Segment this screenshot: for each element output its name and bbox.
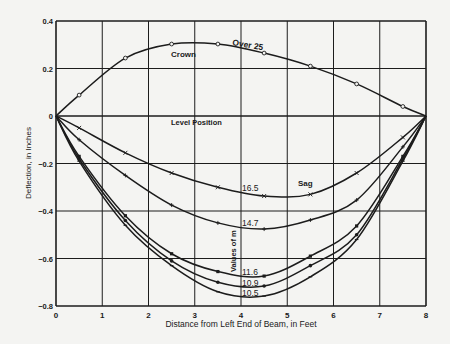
marker-plus: [216, 221, 220, 225]
x-tick-label: 7: [378, 311, 383, 320]
label-m-10-5: 10.5: [242, 288, 259, 298]
marker-dot: [216, 280, 220, 284]
marker-dot: [355, 233, 359, 237]
marker-circle: [123, 56, 127, 60]
marker-square: [124, 214, 127, 217]
x-tick-label: 6: [331, 311, 336, 320]
marker-dot: [124, 219, 128, 223]
deflection-chart: 0123456780.40.20−0.2−0.4−0.6−0.8 Distanc…: [0, 0, 450, 344]
marker-dot: [309, 264, 313, 268]
label-m-11-6: 11.6: [242, 267, 258, 277]
marker-circle: [355, 82, 359, 86]
marker-circle: [308, 64, 312, 68]
marker-plus: [262, 227, 266, 231]
annotation-values-of-m: Values of m: [229, 230, 238, 272]
annotation-level-position: Level Position: [171, 118, 222, 127]
marker-plus: [308, 218, 312, 222]
annotation-sag: Sag: [298, 179, 313, 188]
label-m-10-9: 10.9: [242, 278, 259, 288]
y-tick-label: 0.2: [43, 65, 53, 74]
x-tick-label: 2: [146, 311, 151, 320]
marker-circle: [401, 105, 405, 109]
marker-square: [170, 252, 173, 255]
marker-circle: [216, 42, 220, 46]
x-tick-label: 0: [54, 311, 59, 320]
y-tick-label: 0: [49, 112, 53, 121]
marker-square: [216, 270, 219, 273]
y-tick-label: −0.8: [38, 302, 53, 311]
marker-square: [263, 274, 266, 277]
x-axis-label: Distance from Left End of Beam, in Feet: [165, 319, 317, 329]
marker-circle: [77, 93, 81, 97]
marker-x: [401, 135, 405, 139]
y-tick-label: −0.4: [38, 207, 54, 216]
marker-square: [355, 224, 358, 227]
marker-circle: [262, 51, 266, 55]
annotation-crown: Crown: [171, 50, 196, 59]
y-axis-label: Deflection, in Inches: [24, 127, 33, 199]
marker-dot: [77, 157, 81, 161]
y-tick-label: −0.6: [38, 255, 53, 264]
annotation-over-25: Over 25: [232, 37, 265, 52]
x-tick-label: 8: [424, 311, 429, 320]
marker-dot: [401, 157, 405, 161]
marker-circle: [170, 42, 174, 46]
marker-dot: [170, 259, 174, 263]
y-tick-label: −0.2: [38, 160, 53, 169]
marker-square: [309, 255, 312, 258]
label-m-14-7: 14.7: [242, 218, 259, 228]
chart-canvas: 0123456780.40.20−0.2−0.4−0.6−0.8 Distanc…: [0, 0, 450, 344]
label-m-16-5: 16.5: [242, 183, 259, 193]
y-tick-label: 0.4: [43, 17, 54, 26]
x-tick-label: 1: [100, 311, 105, 320]
marker-dot: [262, 284, 266, 288]
